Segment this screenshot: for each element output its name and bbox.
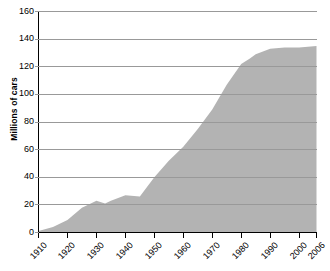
area-chart: Millions of cars 160140120100806040200 1… — [0, 0, 330, 271]
x-tick-label-1910: 1910 — [0, 240, 49, 271]
x-tick-labels: 1910192019301940195019601970198019902000… — [0, 0, 330, 271]
